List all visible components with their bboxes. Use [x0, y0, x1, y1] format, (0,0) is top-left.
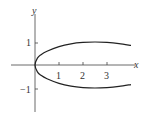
y-tick-label-1: 1: [26, 37, 31, 48]
y-axis-label: y: [31, 5, 37, 16]
x-tick-label-3: 3: [104, 70, 109, 81]
y-tick-label-neg1: −1: [20, 84, 31, 95]
plot: 1 2 3 1 −1 x y: [0, 0, 144, 121]
x-tick-label-2: 2: [80, 70, 85, 81]
x-axis-label: x: [133, 59, 139, 70]
x-tick-label-1: 1: [56, 70, 61, 81]
